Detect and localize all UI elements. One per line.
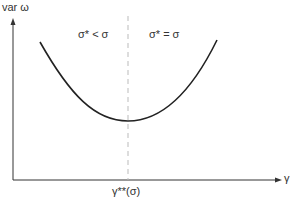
x-axis-arrow-icon — [275, 178, 282, 183]
region-right-label: σ* = σ — [149, 28, 179, 40]
y-axis-arrow-icon — [11, 18, 16, 25]
y-axis-label: var ω — [2, 1, 29, 13]
region-left-label: σ* < σ — [78, 28, 108, 40]
diagram-canvas — [0, 0, 290, 202]
x-axis-label: γ — [284, 172, 290, 184]
x-marker-label: γ**(σ) — [112, 185, 140, 197]
